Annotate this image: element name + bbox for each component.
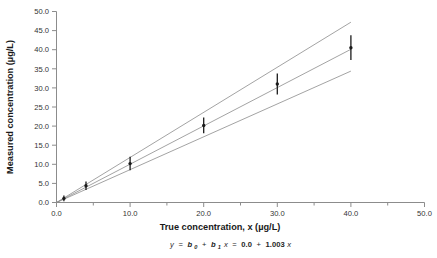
eq-sub-0: 0 [194,244,198,250]
x-tick-label-0: 0.0 [51,209,62,218]
y-tick-label-25: 25.0 [34,103,49,112]
marker-2 [84,184,87,187]
chart-page: 0.0 5.0 10.0 15.0 20.0 25.0 30.0 35.0 40… [0,0,437,258]
eq-slope: 1.003 [266,240,285,249]
y-tick-label-0: 0.0 [38,198,49,207]
marker-3 [128,162,131,165]
y-tick-label-35: 35.0 [34,65,49,74]
marker-5 [276,82,279,85]
y-tick-label-50: 50.0 [34,7,49,16]
x-axis-title: True concentration, x (µg/L) [160,222,281,232]
eq-sub-1: 1 [218,244,221,250]
marker-6 [349,46,352,49]
y-tick-label-5: 5.0 [38,179,49,188]
x-tick-label-10: 10.0 [123,209,138,218]
eq-b: b [187,240,192,249]
y-axis-title: Measured concentration (µg/L) [5,40,15,174]
eq-b1: b [211,240,216,249]
x-tick-label-20: 20.0 [196,209,211,218]
eq-intercept: 0.0 [241,240,252,249]
eq-y: y [169,240,175,249]
marker-4 [202,124,205,127]
y-tick-label-45: 45.0 [34,26,49,35]
eq-equals-1: = [178,240,183,249]
calibration-scatter-chart: 0.0 5.0 10.0 15.0 20.0 25.0 30.0 35.0 40… [0,0,437,258]
marker-1 [62,197,65,200]
eq-plus-2: + [257,240,262,249]
x-tick-label-40: 40.0 [344,209,359,218]
chart-background [0,0,437,258]
eq-x-var: x [223,240,229,249]
x-tick-label-50: 50.0 [417,209,432,218]
y-tick-label-10: 10.0 [34,160,49,169]
y-tick-label-40: 40.0 [34,45,49,54]
x-tick-label-30: 30.0 [270,209,285,218]
y-tick-label-30: 30.0 [34,84,49,93]
y-tick-label-20: 20.0 [34,122,49,131]
eq-equals-2: = [232,240,237,249]
eq-plus-1: + [202,240,207,249]
y-tick-label-15: 15.0 [34,141,49,150]
